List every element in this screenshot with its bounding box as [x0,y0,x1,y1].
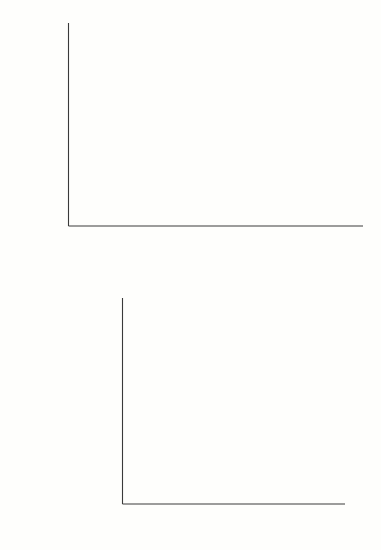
figure-root [0,0,381,550]
bottom-chart-axes [123,298,346,504]
bottom-chart-svg [0,272,381,550]
top-chart-axes [69,23,364,226]
bottom-chart-panel [0,272,381,550]
top-chart-svg [0,0,381,272]
top-chart-panel [0,0,381,272]
